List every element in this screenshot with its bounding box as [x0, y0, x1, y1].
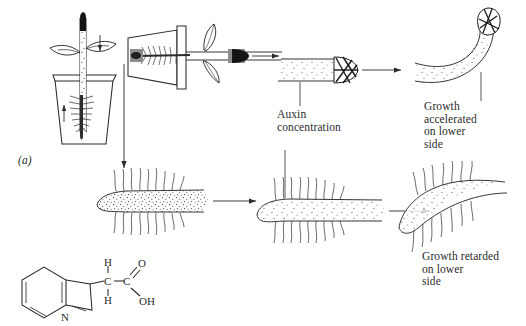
atom-h-top: H: [104, 256, 112, 268]
figure-canvas: (a) Auxin concentration Growth accelerat…: [0, 0, 526, 326]
straight-shoot-tip: [275, 52, 401, 106]
horizontal-potted-seedling: [124, 24, 282, 168]
atom-h-bottom: H: [104, 294, 112, 306]
indole-3-acetic-acid-structure: [22, 266, 140, 318]
auxin-concentration-label: Auxin concentration: [277, 108, 341, 133]
upright-potted-seedling: [50, 12, 116, 144]
downward-curved-root-tip: [395, 161, 510, 256]
panel-label-a: (a): [18, 154, 32, 167]
growth-accelerated-label: Growth accelerated on lower side: [424, 100, 477, 150]
atom-c-carboxyl: C: [123, 275, 130, 287]
upward-curved-shoot-tip: [408, 8, 503, 101]
atom-o-double: O: [138, 257, 146, 269]
growth-retarded-label: Growth retarded on lower side: [422, 250, 499, 288]
evenly-stippled-root-tip: [92, 168, 256, 235]
atom-oh: OH: [139, 295, 155, 307]
atom-c-alpha: C: [104, 275, 111, 287]
atom-n-ring: N: [61, 311, 69, 323]
